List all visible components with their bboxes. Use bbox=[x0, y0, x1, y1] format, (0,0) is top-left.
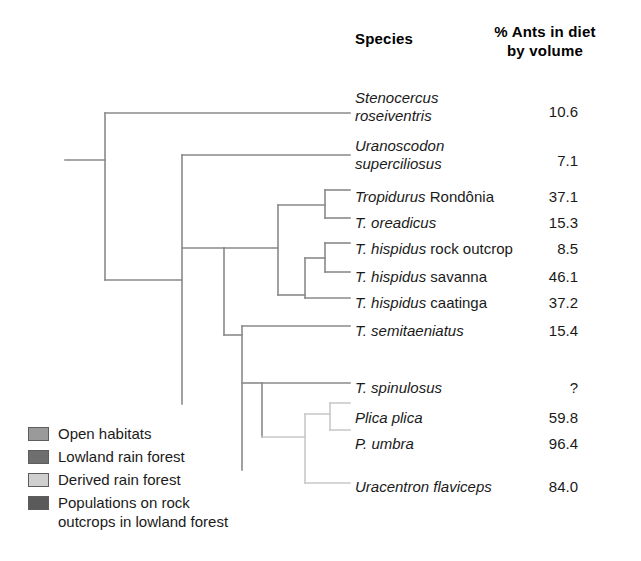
diet-value-t-spinulosus: ? bbox=[492, 379, 578, 396]
figure-root: Species % Ants in diet by volume bbox=[0, 0, 641, 561]
diet-value-t-hispidus-caatinga: 37.2 bbox=[492, 294, 578, 311]
tip-genus: Uracentron flaviceps bbox=[355, 478, 492, 495]
diet-value-uracentron-flaviceps: 84.0 bbox=[492, 478, 578, 495]
tip-label-stenocercus-roseiventris: Stenocercus roseiventris bbox=[355, 89, 438, 125]
diet-value-stenocercus-roseiventris: 10.6 bbox=[492, 103, 578, 120]
tip-label-t-semitaeniatus: T. semitaeniatus bbox=[355, 322, 464, 340]
tip-genus: T. hispidus bbox=[355, 240, 426, 257]
legend-swatch-icon bbox=[28, 473, 49, 487]
legend-item-rock-outcrop-populations: Populations on rock outcrops in lowland … bbox=[28, 493, 228, 531]
legend-swatch-icon bbox=[28, 450, 49, 464]
legend-item-lowland-rain-forest: Lowland rain forest bbox=[28, 447, 228, 466]
tip-locality: caatinga bbox=[426, 294, 487, 311]
diet-value-t-hispidus-rock-outcrop: 8.5 bbox=[492, 240, 578, 257]
diet-value-p-umbra: 96.4 bbox=[492, 435, 578, 452]
tip-name-line2: superciliosus bbox=[355, 155, 442, 172]
tip-locality: savanna bbox=[426, 268, 487, 285]
tree-branch-group-light bbox=[262, 403, 350, 483]
legend-item-open-habitats: Open habitats bbox=[28, 424, 228, 443]
diet-value-t-semitaeniatus: 15.4 bbox=[492, 322, 578, 339]
tip-genus: T. semitaeniatus bbox=[355, 322, 464, 339]
tip-genus: T. spinulosus bbox=[355, 379, 442, 396]
tip-genus: Plica plica bbox=[355, 409, 423, 426]
diet-value-uranoscodon-superciliosus: 7.1 bbox=[492, 152, 578, 169]
tree-branch-group bbox=[65, 113, 350, 470]
tip-label-t-hispidus-savanna: T. hispidus savanna bbox=[355, 268, 487, 286]
legend-item-derived-rain-forest: Derived rain forest bbox=[28, 470, 228, 489]
tip-genus: T. hispidus bbox=[355, 294, 426, 311]
legend-swatch-icon bbox=[28, 496, 49, 510]
diet-value-t-oreadicus: 15.3 bbox=[492, 214, 578, 231]
diet-value-tropidurus-rondonia: 37.1 bbox=[492, 188, 578, 205]
habitat-legend: Open habitats Lowland rain forest Derive… bbox=[28, 424, 228, 535]
tip-label-t-hispidus-rock-outcrop: T. hispidus rock outcrop bbox=[355, 240, 513, 258]
tip-genus: Tropidurus bbox=[355, 188, 426, 205]
legend-label: Populations on rock outcrops in lowland … bbox=[58, 493, 228, 531]
legend-label: Lowland rain forest bbox=[58, 447, 185, 466]
tip-name-line1: Uranoscodon bbox=[355, 137, 444, 154]
legend-label: Open habitats bbox=[58, 424, 151, 443]
tip-genus: P. umbra bbox=[355, 435, 414, 452]
tip-label-tropidurus-rondonia: Tropidurus Rondônia bbox=[355, 188, 494, 206]
tip-name-line2: roseiventris bbox=[355, 107, 432, 124]
tip-label-t-oreadicus: T. oreadicus bbox=[355, 214, 436, 232]
diet-value-t-hispidus-savanna: 46.1 bbox=[492, 268, 578, 285]
legend-label: Derived rain forest bbox=[58, 470, 181, 489]
diet-value-plica-plica: 59.8 bbox=[492, 409, 578, 426]
tip-label-t-spinulosus: T. spinulosus bbox=[355, 379, 442, 397]
tip-locality: Rondônia bbox=[426, 188, 494, 205]
tip-genus: T. oreadicus bbox=[355, 214, 436, 231]
tip-label-p-umbra: P. umbra bbox=[355, 435, 414, 453]
tip-label-uranoscodon-superciliosus: Uranoscodon superciliosus bbox=[355, 137, 444, 173]
legend-swatch-icon bbox=[28, 427, 49, 441]
tip-label-plica-plica: Plica plica bbox=[355, 409, 423, 427]
tip-name-line1: Stenocercus bbox=[355, 89, 438, 106]
tip-genus: T. hispidus bbox=[355, 268, 426, 285]
tip-label-uracentron-flaviceps: Uracentron flaviceps bbox=[355, 478, 492, 496]
tip-label-t-hispidus-caatinga: T. hispidus caatinga bbox=[355, 294, 487, 312]
